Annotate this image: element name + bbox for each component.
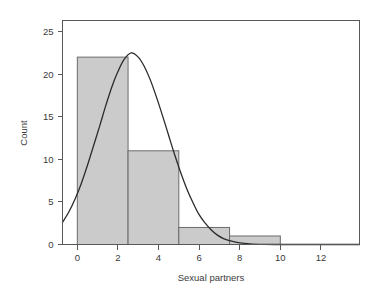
y-axis-title: Count xyxy=(18,120,29,146)
x-tick-label: 10 xyxy=(275,252,286,263)
histogram-bar xyxy=(128,151,179,245)
x-tick-label: 12 xyxy=(316,252,327,263)
y-tick-label: 5 xyxy=(48,196,53,207)
y-tick-label: 0 xyxy=(48,239,53,250)
histogram-bar xyxy=(77,57,128,244)
x-tick-label: 2 xyxy=(115,252,120,263)
histogram-bar xyxy=(179,227,230,244)
chart-canvas: 0510152025 024681012 Sexual partners Cou… xyxy=(0,0,376,297)
histogram-chart: 0510152025 024681012 Sexual partners Cou… xyxy=(0,0,376,297)
y-tick-label: 15 xyxy=(43,111,54,122)
x-tick-label: 0 xyxy=(75,252,80,263)
y-tick-label: 20 xyxy=(43,69,54,80)
x-axis-title: Sexual partners xyxy=(178,272,245,283)
histogram-bar xyxy=(230,236,281,245)
x-tick-label: 4 xyxy=(156,252,161,263)
x-tick-label: 8 xyxy=(237,252,242,263)
y-tick-label: 10 xyxy=(43,154,54,165)
x-tick-label: 6 xyxy=(196,252,201,263)
y-tick-label: 25 xyxy=(43,26,54,37)
